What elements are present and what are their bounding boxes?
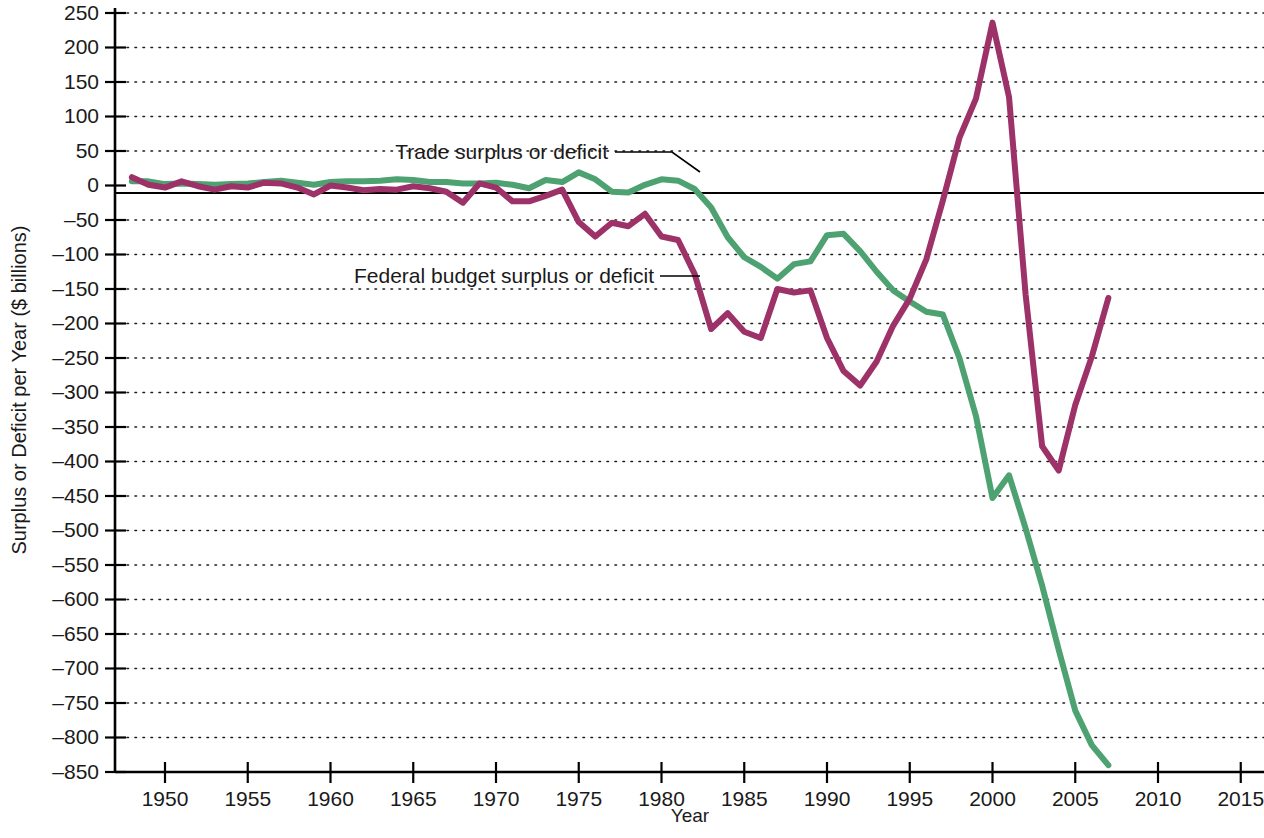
y-tick-label: –450 (52, 484, 99, 507)
trade-annotation-label: Trade surplus or deficit (395, 140, 608, 163)
y-tick-label: –350 (52, 415, 99, 438)
y-tick-label: –850 (52, 760, 99, 783)
gridlines-group (127, 13, 1264, 772)
y-tick-label: 50 (76, 139, 99, 162)
federal-annotation-label: Federal budget surplus or deficit (354, 264, 654, 287)
x-tick-label: 1950 (142, 787, 189, 810)
x-tick-label: 1960 (307, 787, 354, 810)
y-tick-label: 0 (87, 173, 99, 196)
chart-container: 250200150100500–50–100–150–200–250–300–3… (0, 0, 1264, 838)
line-chart: 250200150100500–50–100–150–200–250–300–3… (0, 0, 1264, 838)
y-tick-label: –750 (52, 691, 99, 714)
y-tick-label: –550 (52, 553, 99, 576)
x-axis-title: Year (671, 805, 710, 826)
x-tick-label: 1975 (555, 787, 602, 810)
axes-group (115, 8, 1264, 772)
x-tick-label: 1965 (390, 787, 437, 810)
trade-annotation-leader-line (615, 152, 700, 172)
y-tick-label: –300 (52, 380, 99, 403)
y-tick-label: 150 (64, 70, 99, 93)
x-tick-label: 1955 (224, 787, 271, 810)
y-tick-labels-group: 250200150100500–50–100–150–200–250–300–3… (52, 1, 99, 783)
y-tick-label: 100 (64, 104, 99, 127)
y-tick-label: –250 (52, 346, 99, 369)
x-tick-label: 2005 (1052, 787, 1099, 810)
x-tick-label: 2010 (1135, 787, 1182, 810)
x-tick-label: 1985 (721, 787, 768, 810)
y-tick-label: –650 (52, 622, 99, 645)
y-tick-label: 200 (64, 35, 99, 58)
y-tick-label: 250 (64, 1, 99, 24)
y-tick-label: –800 (52, 725, 99, 748)
y-tick-label: –500 (52, 518, 99, 541)
x-tick-label: 2000 (969, 787, 1016, 810)
y-tick-label: –600 (52, 587, 99, 610)
y-tick-label: –150 (52, 277, 99, 300)
y-tick-label: –50 (64, 208, 99, 231)
y-tick-label: –100 (52, 242, 99, 265)
data-series-group (132, 23, 1108, 765)
series-line-federal-budget (132, 23, 1108, 471)
x-tick-label: 1995 (886, 787, 933, 810)
x-tick-label: 2015 (1217, 787, 1264, 810)
y-tick-label: –400 (52, 449, 99, 472)
x-tick-label: 1990 (804, 787, 851, 810)
y-tick-label: –700 (52, 656, 99, 679)
x-tick-label: 1970 (473, 787, 520, 810)
series-line-trade (132, 172, 1108, 765)
y-axis-title: Surplus or Deficit per Year ($ billions) (8, 225, 30, 554)
y-tick-label: –200 (52, 311, 99, 334)
